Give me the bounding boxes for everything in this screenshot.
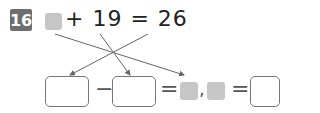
result-placeholder-1 — [180, 82, 198, 100]
answer-box-1[interactable] — [45, 76, 89, 107]
equals-sign-1: = — [160, 76, 178, 101]
minus-sign: − — [95, 76, 113, 101]
answer-box-2[interactable] — [112, 76, 156, 107]
equals-sign-2: = — [231, 76, 249, 101]
answer-box-3[interactable] — [250, 76, 280, 107]
result-placeholder-2 — [207, 82, 225, 100]
comma: , — [199, 78, 205, 99]
